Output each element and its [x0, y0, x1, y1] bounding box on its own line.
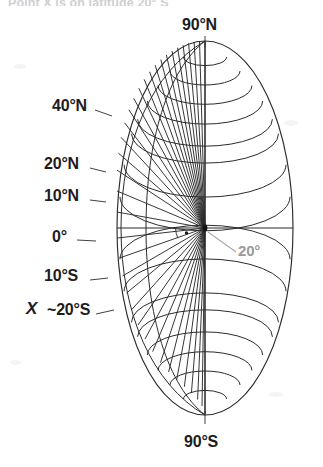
label-angle-20: 20°	[238, 243, 260, 258]
label-lat-10s: 10°S	[44, 268, 78, 284]
label-equator: 0°	[52, 229, 67, 245]
globe-diagram	[0, 0, 323, 467]
label-lat-20n: 20°N	[44, 156, 79, 172]
label-lat-40n: 40°N	[52, 98, 87, 114]
label-lat-10n: 10°N	[44, 188, 79, 204]
label-south-pole: 90°S	[184, 434, 218, 450]
radial-lines-north	[117, 41, 205, 228]
diagram-stage: Point X is on latitude 20° S	[0, 0, 323, 467]
label-point-x: X	[26, 300, 37, 317]
label-lat-20s: ~20°S	[47, 302, 90, 318]
label-north-pole: 90°N	[182, 17, 217, 33]
angle-leader-line	[208, 232, 236, 252]
centre-point	[203, 225, 208, 232]
